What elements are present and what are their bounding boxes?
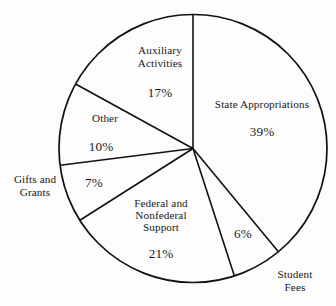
slice-value-state-appropriations: 39% [196,125,328,139]
slice-label-federal-support-line2: Nonfederal [115,209,207,221]
slice-label-gifts-and-grants-line2: Grants [2,186,68,199]
slice-label-auxiliary-activities-line2: Activities [110,57,210,70]
slice-value-other: 10% [58,140,144,154]
slice-value-student-fees: 6% [222,227,264,241]
slice-label-gifts-and-grants-line1: Gifts and [2,173,68,186]
slice-label-federal-support: Federal and Nonfederal Support [115,197,207,233]
slice-label-other: Other [62,112,148,124]
slice-label-student-fees-line1: Student [262,268,328,281]
slice-label-gifts-and-grants: Gifts and Grants [2,173,68,198]
slice-value-auxiliary-activities: 17% [110,86,210,100]
slice-label-federal-support-line3: Support [115,221,207,233]
slice-value-federal-support: 21% [115,247,207,261]
slice-label-auxiliary-activities: Auxiliary Activities [110,44,210,69]
pie-chart-figure: State Appropriations 39% Auxiliary Activ… [0,0,336,306]
slice-label-student-fees: Student Fees [262,268,328,293]
slice-label-student-fees-line2: Fees [262,281,328,294]
slice-label-federal-support-line1: Federal and [115,197,207,209]
slice-label-state-appropriations: State Appropriations [196,98,328,110]
slice-value-gifts-and-grants: 7% [66,176,122,190]
slice-label-auxiliary-activities-line1: Auxiliary [110,44,210,57]
